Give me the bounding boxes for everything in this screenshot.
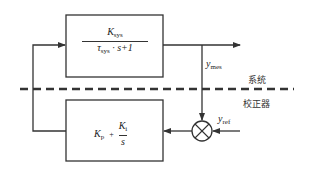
control-block-diagram: Ksys τsys · s+1 Kp + Ki s ymes yref 系统 校… [0, 0, 310, 172]
plant-denominator: τsys · s+1 [97, 42, 133, 57]
integral-term: Ki s [119, 120, 128, 148]
controller-region-label: 校正器 [243, 97, 270, 110]
diagram-lines [0, 0, 310, 172]
reference-signal-label: yref [218, 113, 230, 126]
plant-numerator: Ksys [107, 26, 123, 41]
proportional-gain: Kp [94, 128, 104, 141]
system-region-label: 系统 [248, 73, 266, 86]
controller-transfer-function: Kp + Ki s [94, 120, 127, 148]
plus-operator: + [109, 130, 114, 139]
plant-transfer-function: Ksys τsys · s+1 [82, 26, 148, 57]
measured-signal-label: ymes [206, 58, 222, 71]
summing-junction-icon [192, 121, 212, 141]
